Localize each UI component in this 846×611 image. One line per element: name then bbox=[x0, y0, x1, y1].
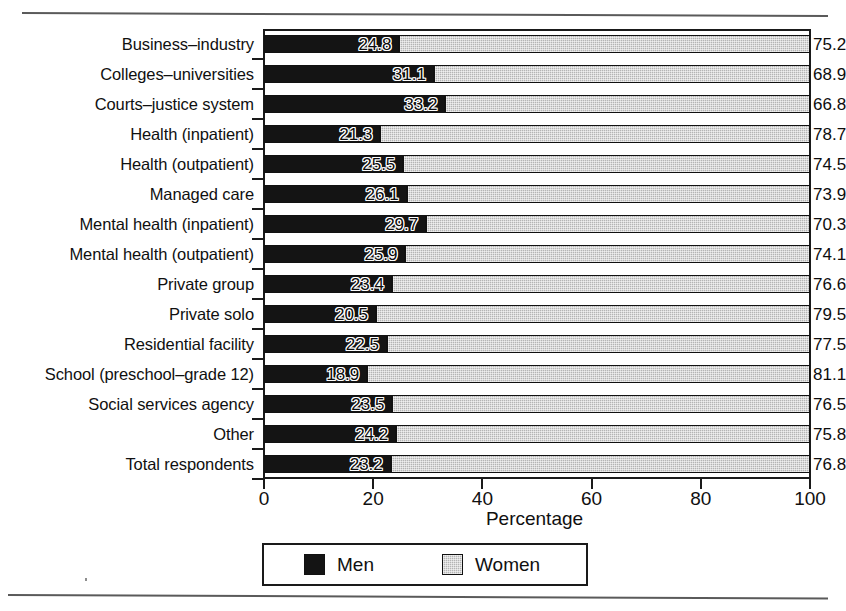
category-label: Colleges–universities bbox=[100, 66, 254, 83]
category-label: Health (outpatient) bbox=[120, 156, 254, 173]
value-label-men: 23.5 bbox=[351, 396, 384, 413]
category-label: Social services agency bbox=[88, 396, 254, 413]
stacked-bar bbox=[264, 395, 810, 413]
value-label-women: 70.3 bbox=[813, 216, 846, 233]
legend-item-women: Women bbox=[442, 554, 540, 575]
value-label-men: 24.2 bbox=[355, 426, 388, 443]
category-label: Managed care bbox=[150, 186, 254, 203]
value-label-women: 66.8 bbox=[813, 96, 846, 113]
legend-label-women: Women bbox=[475, 555, 540, 574]
value-label-men: 29.7 bbox=[385, 216, 418, 233]
category-label: Courts–justice system bbox=[95, 96, 254, 113]
value-label-men: 24.8 bbox=[358, 36, 391, 53]
bar-segment-women bbox=[426, 215, 810, 233]
bar-segment-women bbox=[391, 455, 810, 473]
stacked-bar bbox=[264, 455, 810, 473]
bar-segment-women bbox=[405, 245, 810, 263]
bar-row: Colleges–universities31.168.9 bbox=[0, 59, 833, 89]
value-label-men: 31.1 bbox=[393, 66, 426, 83]
bar-row: Mental health (outpatient)25.974.1 bbox=[0, 239, 833, 269]
bar-row: Health (outpatient)25.574.5 bbox=[0, 149, 833, 179]
value-label-women: 73.9 bbox=[813, 186, 846, 203]
y-axis-tick bbox=[252, 478, 263, 480]
value-label-women: 79.5 bbox=[813, 306, 846, 323]
x-axis-title: Percentage bbox=[0, 509, 833, 528]
category-label: Private solo bbox=[169, 306, 254, 323]
x-axis-tick-label: 80 bbox=[690, 489, 711, 508]
stacked-bar bbox=[264, 95, 810, 113]
page-rule-top bbox=[22, 12, 828, 17]
value-label-men: 25.9 bbox=[364, 246, 397, 263]
legend-label-men: Men bbox=[337, 555, 374, 574]
category-label: Mental health (outpatient) bbox=[69, 246, 254, 263]
category-label: Mental health (inpatient) bbox=[79, 216, 254, 233]
page-rule-bottom bbox=[8, 594, 828, 600]
category-label: Private group bbox=[157, 276, 254, 293]
value-label-men: 20.5 bbox=[335, 306, 368, 323]
bar-row: Courts–justice system33.266.8 bbox=[0, 89, 833, 119]
bar-row: Social services agency23.576.5 bbox=[0, 389, 833, 419]
x-axis-tick-label: 0 bbox=[259, 489, 270, 508]
value-label-women: 68.9 bbox=[813, 66, 846, 83]
x-axis-line bbox=[263, 477, 811, 479]
bar-row: Residential facility22.577.5 bbox=[0, 329, 833, 359]
stacked-bar bbox=[264, 35, 810, 53]
value-label-men: 26.1 bbox=[366, 186, 399, 203]
legend-item-men: Men bbox=[304, 554, 374, 575]
stacked-bar bbox=[264, 245, 810, 263]
bar-row: Managed care26.173.9 bbox=[0, 179, 833, 209]
legend: Men Women bbox=[262, 543, 588, 586]
bar-segment-women bbox=[407, 185, 810, 203]
women-swatch-icon bbox=[442, 554, 463, 575]
bar-segment-women bbox=[399, 35, 810, 53]
category-label: School (preschool–grade 12) bbox=[45, 366, 254, 383]
bar-rows: Business–industry24.875.2Colleges–univer… bbox=[0, 29, 833, 479]
value-label-women: 77.5 bbox=[813, 336, 846, 353]
bar-row: Total respondents23.276.8 bbox=[0, 449, 833, 479]
bar-segment-women bbox=[396, 425, 810, 443]
bar-row: Private group23.476.6 bbox=[0, 269, 833, 299]
value-label-men: 33.2 bbox=[404, 96, 437, 113]
value-label-men: 23.2 bbox=[350, 456, 383, 473]
stacked-bar bbox=[264, 425, 810, 443]
bar-segment-women bbox=[392, 395, 810, 413]
x-axis-tick-label: 100 bbox=[794, 489, 826, 508]
bar-segment-women bbox=[387, 335, 810, 353]
bar-segment-women bbox=[403, 155, 810, 173]
x-axis-tick-label: 60 bbox=[581, 489, 602, 508]
men-swatch-icon bbox=[304, 554, 325, 575]
stacked-bar bbox=[264, 65, 810, 83]
value-label-men: 18.9 bbox=[326, 366, 359, 383]
value-label-men: 21.3 bbox=[339, 126, 372, 143]
x-axis-tick-label: 20 bbox=[363, 489, 384, 508]
value-label-women: 75.8 bbox=[813, 426, 846, 443]
value-label-women: 74.1 bbox=[813, 246, 846, 263]
bar-segment-women bbox=[380, 125, 810, 143]
stacked-bar bbox=[264, 155, 810, 173]
bar-row: Health (inpatient)21.378.7 bbox=[0, 119, 833, 149]
bar-row: School (preschool–grade 12)18.981.1 bbox=[0, 359, 833, 389]
bar-row: Mental health (inpatient)29.770.3 bbox=[0, 209, 833, 239]
bar-segment-women bbox=[445, 95, 810, 113]
value-label-women: 76.8 bbox=[813, 456, 846, 473]
stacked-bar bbox=[264, 275, 810, 293]
bar-segment-women bbox=[434, 65, 810, 83]
value-label-women: 76.6 bbox=[813, 276, 846, 293]
value-label-women: 76.5 bbox=[813, 396, 846, 413]
value-label-men: 23.4 bbox=[351, 276, 384, 293]
category-label: Health (inpatient) bbox=[130, 126, 254, 143]
value-label-women: 81.1 bbox=[813, 366, 846, 383]
bar-row: Other24.275.8 bbox=[0, 419, 833, 449]
category-label: Residential facility bbox=[124, 336, 254, 353]
bar-row: Business–industry24.875.2 bbox=[0, 29, 833, 59]
bar-row: Private solo20.579.5 bbox=[0, 299, 833, 329]
x-axis-tick-label: 40 bbox=[472, 489, 493, 508]
value-label-men: 22.5 bbox=[346, 336, 379, 353]
bar-segment-women bbox=[392, 275, 810, 293]
category-label: Business–industry bbox=[122, 36, 254, 53]
value-label-women: 75.2 bbox=[813, 36, 846, 53]
stacked-bar bbox=[264, 185, 810, 203]
bar-segment-women bbox=[367, 365, 810, 383]
category-label: Other bbox=[213, 426, 254, 443]
